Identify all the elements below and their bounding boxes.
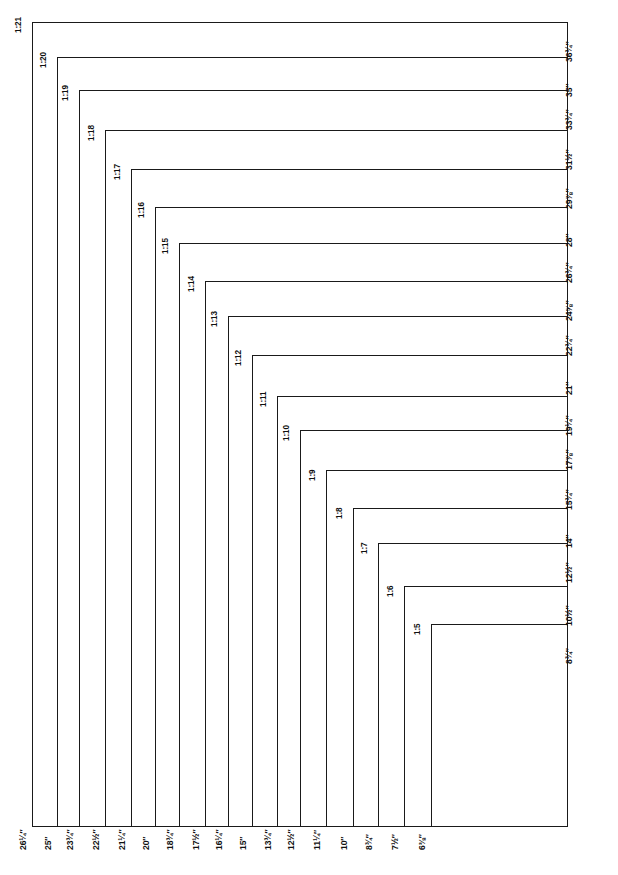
- height-label-1-8: 14″: [564, 535, 574, 548]
- height-label-1-20: 35″: [564, 84, 574, 97]
- ratio-label-1-20: 1:20: [39, 52, 48, 68]
- ratio-label-1-6: 1:6: [386, 585, 395, 597]
- height-label-1-7: 12½″: [564, 563, 574, 583]
- height-label-1-17: 29⅞″: [564, 189, 574, 209]
- height-label-1-21: 36¾″: [564, 42, 574, 62]
- height-label-1-5: 8¾″: [564, 648, 574, 664]
- height-label-1-15: 26¾″: [564, 263, 574, 283]
- ratio-label-1-19: 1:19: [61, 85, 70, 101]
- ratio-label-1-13: 1:13: [210, 311, 219, 327]
- width-label-1-13: 16¼″: [214, 830, 224, 850]
- ratio-label-1-17: 1:17: [113, 164, 122, 180]
- ratio-label-1-18: 1:18: [87, 125, 96, 141]
- ratio-label-1-16: 1:16: [137, 202, 146, 218]
- width-label-1-17: 21¼″: [117, 830, 127, 850]
- ratio-label-1-10: 1:10: [282, 425, 291, 441]
- width-label-1-12: 15″: [238, 837, 248, 850]
- rectangle-1-5: [431, 624, 568, 827]
- diagram-canvas: 1:211:201:191:181:171:161:151:141:131:12…: [0, 0, 618, 875]
- width-label-1-20: 25″: [43, 837, 53, 850]
- height-label-1-12: 21″: [564, 382, 574, 395]
- ratio-label-1-12: 1:12: [234, 350, 243, 366]
- width-label-1-14: 17½″: [191, 830, 201, 850]
- height-label-1-13: 22¾″: [564, 336, 574, 356]
- width-label-1-21: 26¼″: [18, 830, 28, 850]
- height-label-1-10: 17⅞″: [564, 450, 574, 470]
- width-label-1-7: 8¾″: [364, 834, 374, 850]
- height-label-1-18: 31½″: [564, 150, 574, 170]
- ratio-label-1-5: 1:5: [413, 623, 422, 635]
- ratio-label-1-21: 1:21: [14, 17, 23, 33]
- width-label-1-15: 18¾″: [165, 830, 175, 850]
- ratio-label-1-9: 1:9: [308, 469, 317, 481]
- width-label-1-9: 11¼″: [312, 830, 322, 850]
- ratio-label-1-14: 1:14: [187, 276, 196, 292]
- height-label-1-14: 24⅝″: [564, 301, 574, 321]
- ratio-label-1-7: 1:7: [360, 542, 369, 554]
- height-label-1-19: 33¾″: [564, 110, 574, 130]
- width-label-1-10: 12½″: [286, 830, 296, 850]
- width-label-1-16: 20″: [141, 837, 151, 850]
- width-label-1-11: 13¾″: [263, 830, 273, 850]
- height-label-1-9: 15¾″: [564, 490, 574, 510]
- width-label-1-6: 7½″: [390, 834, 400, 850]
- width-label-1-5: 6⅜″: [417, 834, 427, 850]
- width-label-1-19: 23¾″: [65, 830, 75, 850]
- height-label-1-6: 10½″: [564, 606, 574, 626]
- height-label-1-11: 19¼″: [564, 416, 574, 436]
- height-label-1-16: 28″: [564, 234, 574, 247]
- ratio-label-1-8: 1:8: [335, 507, 344, 519]
- width-label-1-18: 22½″: [91, 830, 101, 850]
- ratio-label-1-11: 1:11: [259, 391, 268, 407]
- width-label-1-8: 10″: [339, 837, 349, 850]
- ratio-label-1-15: 1:15: [161, 238, 170, 254]
